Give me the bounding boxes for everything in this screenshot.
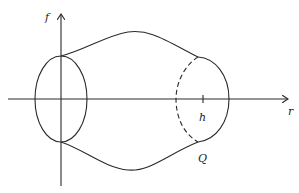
upper-profile-curve bbox=[61, 32, 198, 57]
h-label: h bbox=[199, 111, 206, 124]
f-axis-label: f bbox=[44, 11, 51, 24]
diagram-figure: f r h Q bbox=[0, 0, 299, 193]
lower-profile-curve bbox=[61, 142, 198, 170]
r-axis-label: r bbox=[288, 105, 294, 118]
q-label: Q bbox=[198, 152, 207, 165]
